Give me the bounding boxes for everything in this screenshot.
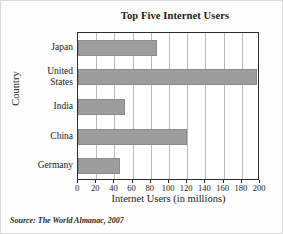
x-tick-label: 80 [146, 183, 155, 193]
x-tick-label: 140 [198, 183, 211, 193]
chart-title: Top Five Internet Users [73, 10, 277, 21]
x-tick-label: 60 [127, 183, 136, 193]
x-axis-title: Internet Users (in millions) [61, 193, 276, 204]
chart-figure: Top Five Internet Users Country JapanUni… [0, 0, 283, 234]
bar-japan[interactable] [78, 40, 157, 56]
category-label-india: India [15, 101, 73, 112]
category-label-china: China [15, 130, 73, 141]
x-tick-label: 120 [180, 183, 193, 193]
category-label-united-states: UnitedStates [15, 66, 73, 87]
x-tick-label: 20 [91, 183, 100, 193]
bar-row[interactable] [78, 122, 187, 152]
x-tick-label: 0 [75, 183, 79, 193]
x-tick-label: 100 [162, 183, 175, 193]
category-label-germany: Germany [15, 160, 73, 171]
bar-germany[interactable] [78, 158, 120, 174]
x-tick-label: 180 [234, 183, 247, 193]
source-note: Source: The World Almanac, 2007 [10, 216, 124, 225]
bar-series [78, 33, 258, 179]
x-tick-label: 160 [216, 183, 229, 193]
x-tick-label: 40 [109, 183, 118, 193]
category-label-japan: Japan [15, 42, 73, 53]
plot-area [77, 32, 259, 180]
bar-united-states[interactable] [78, 69, 257, 85]
bar-india[interactable] [78, 99, 125, 115]
x-axis-ticks: 020406080100120140160180200 [77, 180, 259, 192]
bar-row[interactable] [78, 33, 157, 63]
bar-row[interactable] [78, 92, 125, 122]
bar-row[interactable] [78, 63, 257, 93]
category-axis-labels: JapanUnitedStatesIndiaChinaGermany [15, 32, 73, 180]
bar-china[interactable] [78, 129, 187, 145]
bar-row[interactable] [78, 151, 120, 181]
x-tick-label: 200 [253, 183, 266, 193]
